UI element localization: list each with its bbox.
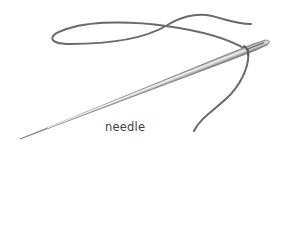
needle-label: needle [105,120,145,134]
